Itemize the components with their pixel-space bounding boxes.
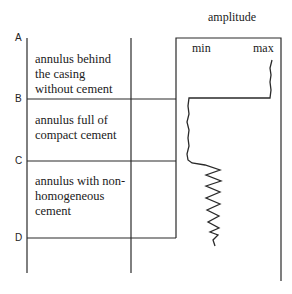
amplitude-signal bbox=[187, 60, 272, 246]
cement-bond-log-diagram bbox=[0, 0, 292, 294]
min-label: min bbox=[192, 41, 211, 56]
marker-D: D bbox=[15, 232, 22, 243]
marker-A: A bbox=[15, 32, 22, 43]
max-label: max bbox=[253, 41, 274, 56]
amplitude-title: amplitude bbox=[208, 10, 256, 25]
zone-no-cement-label: annulus behind the casing without cement bbox=[35, 52, 112, 97]
marker-B: B bbox=[15, 93, 22, 104]
zone-compact-cement-label: annulus full of compact cement bbox=[35, 113, 117, 143]
zone-nonhomogeneous-label: annulus with non- homogeneous cement bbox=[35, 174, 125, 219]
log-track-frame bbox=[176, 38, 281, 281]
marker-C: C bbox=[15, 155, 22, 166]
